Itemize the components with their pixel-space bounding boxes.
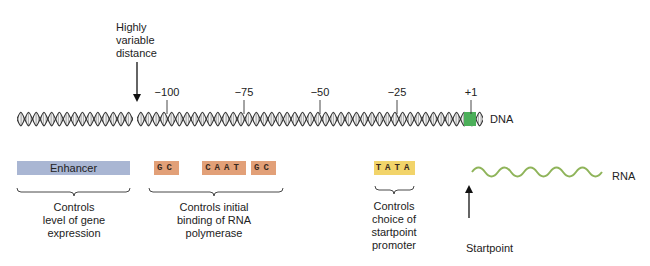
tata-box: TATA — [374, 161, 415, 175]
enhancer-caption-line-3: expression — [14, 227, 134, 240]
tata-brace — [375, 186, 414, 194]
enhancer-brace — [17, 188, 130, 196]
tata-caption-line-1: Controls — [364, 200, 424, 213]
caat-label: CAAT — [205, 163, 243, 173]
enhancer-caption: Controls level of gene expression — [14, 201, 134, 240]
enhancer-label: Enhancer — [50, 162, 97, 174]
tata-caption-line-3: startpoint — [364, 226, 424, 239]
gc-caat-caption-line-1: Controls initial — [154, 201, 274, 214]
gc-caat-caption: Controls initial binding of RNA polymera… — [154, 201, 274, 240]
variable-distance-label: Highly variable distance — [116, 21, 157, 60]
startpoint-arrow — [465, 185, 473, 218]
gc-box-2: GC — [251, 161, 276, 175]
enhancer-box: Enhancer — [17, 161, 130, 175]
rna-wave — [472, 168, 602, 177]
variable-distance-arrow — [133, 62, 141, 102]
variable-distance-line-3: distance — [116, 47, 157, 60]
tata-caption-line-4: promoter — [364, 239, 424, 252]
tata-caption: Controls choice of startpoint promoter — [364, 200, 424, 252]
tata-label: TATA — [376, 163, 414, 173]
position-label-minus25: −25 — [382, 86, 412, 99]
position-label-minus50: −50 — [305, 86, 335, 99]
startpoint-label: Startpoint — [466, 242, 513, 255]
gc-caat-caption-line-3: polymerase — [154, 227, 274, 240]
enhancer-caption-line-1: Controls — [14, 201, 134, 214]
gc-label-1: GC — [157, 163, 176, 173]
gc-caat-caption-line-2: binding of RNA — [154, 214, 274, 227]
tata-caption-line-2: choice of — [364, 213, 424, 226]
dna-label: DNA — [490, 113, 513, 126]
rna-label: RNA — [612, 170, 635, 183]
gc-box-1: GC — [154, 161, 179, 175]
variable-distance-line-1: Highly — [116, 21, 157, 34]
enhancer-caption-line-2: level of gene — [14, 214, 134, 227]
caat-box: CAAT — [202, 161, 246, 175]
dna-helix-segment-2 — [137, 112, 484, 126]
gc-caat-brace — [149, 188, 283, 196]
dna-helix-segment-1 — [17, 112, 140, 126]
position-label-minus100: −100 — [152, 86, 182, 99]
variable-distance-line-2: variable — [116, 34, 157, 47]
startpoint-marker — [464, 112, 476, 126]
position-label-plus1: +1 — [456, 86, 486, 99]
position-label-minus75: −75 — [229, 86, 259, 99]
gc-label-2: GC — [254, 163, 273, 173]
